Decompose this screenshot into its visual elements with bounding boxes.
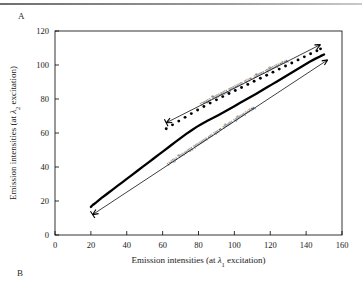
data-point [190,112,193,115]
x-tick-label: 120 [264,240,277,250]
x-tick-label: 140 [300,240,313,250]
data-point [171,123,174,126]
data-point [315,49,318,52]
x-tick-label: 80 [194,240,203,250]
data-point [290,62,293,65]
data-point [184,116,187,119]
x-axis-title: Emission intensities (at λ1 excitation) [131,255,265,268]
data-point [165,127,168,130]
y-axis-ticks [55,31,59,235]
data-point [196,109,199,112]
plot-frame [55,31,342,235]
x-tick-label: 20 [87,240,96,250]
data-point [297,58,300,61]
data-point [319,47,322,50]
x-tick-label: 160 [336,240,349,250]
y-axis-tick-labels: 020406080100120 [36,26,49,240]
data-point [177,120,180,123]
series-no-internal-filtering [91,54,324,206]
x-axis-tick-labels: 020406080100120140160 [53,240,349,250]
y-tick-label: 120 [36,26,49,36]
y-tick-label: 40 [41,162,50,172]
chart-figure: 020406080100120140160 020406080100120 Wa… [0,0,362,287]
y-tick-label: 80 [41,94,50,104]
data-point [309,52,312,55]
x-tick-label: 60 [158,240,167,250]
x-tick-label: 0 [53,240,57,250]
annotation-no-internal-filtering: Wavelength range with no internal filter… [165,105,256,168]
annotation-layer: Wavelength range with internal filtering… [90,45,327,218]
y-tick-label: 60 [41,128,50,138]
y-tick-label: 0 [45,230,49,240]
y-tick-label: 100 [36,60,49,70]
x-axis-ticks [55,231,342,235]
y-tick-label: 20 [41,196,50,206]
data-point [303,55,306,58]
x-tick-label: 100 [228,240,241,250]
y-axis-title: Emission intensities (at λ2 excitation) [8,66,21,200]
x-tick-label: 40 [123,240,132,250]
